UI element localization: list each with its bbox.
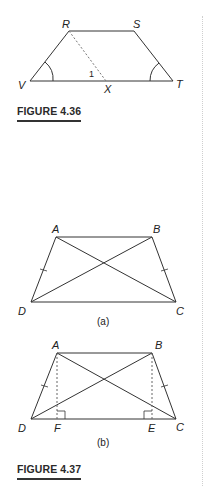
angle-arc-v — [45, 62, 53, 81]
sublabel-a: (a) — [97, 316, 109, 327]
angle-label-1: 1 — [89, 69, 94, 79]
diagonal-ac-a — [56, 237, 176, 302]
vertex-label-v: V — [18, 79, 27, 91]
sublabel-b: (b) — [97, 437, 109, 448]
dashed-segment-rx — [69, 31, 106, 81]
vertex-label-d-a: D — [18, 305, 26, 317]
textbook-figure-page: R S V T X 1 A B D C (a) A — [0, 0, 208, 486]
right-angle-mark-e — [144, 411, 152, 419]
vertex-label-a-a: A — [51, 223, 59, 235]
diagonal-bd-b — [31, 353, 152, 419]
trapezoid-abcd-b — [31, 353, 176, 419]
vertex-label-d-b: D — [18, 422, 26, 434]
caption-underline-4-37 — [17, 478, 81, 480]
vertex-label-b-b: B — [155, 339, 162, 351]
point-label-e: E — [148, 422, 156, 434]
point-label-x: X — [103, 83, 112, 95]
figure-caption-4-37: FIGURE 4.37 — [17, 463, 81, 475]
figure-caption-4-36: FIGURE 4.36 — [17, 105, 81, 117]
diagonal-ac-b — [57, 353, 176, 419]
right-angle-mark-f — [57, 411, 65, 419]
geometry-figures: R S V T X 1 A B D C (a) A — [0, 0, 208, 486]
figure-4-37a-diagram — [31, 237, 176, 302]
trapezoid-abcd-a — [31, 237, 176, 302]
vertex-label-c-b: C — [176, 421, 184, 433]
figure-4-36-diagram — [30, 31, 173, 81]
diagonal-bd-a — [31, 237, 152, 302]
vertex-label-s: S — [133, 18, 141, 30]
figure-4-37b-diagram — [31, 353, 176, 419]
caption-underline-4-36 — [17, 120, 81, 122]
vertex-label-t: T — [176, 78, 184, 90]
vertex-label-a-b: A — [51, 339, 59, 351]
page-margin-divider — [202, 16, 203, 486]
vertex-label-r: R — [62, 18, 70, 30]
vertex-label-c-a: C — [176, 305, 184, 317]
vertex-label-b-a: B — [153, 223, 160, 235]
point-label-f: F — [54, 422, 62, 434]
angle-arc-t — [150, 63, 159, 81]
